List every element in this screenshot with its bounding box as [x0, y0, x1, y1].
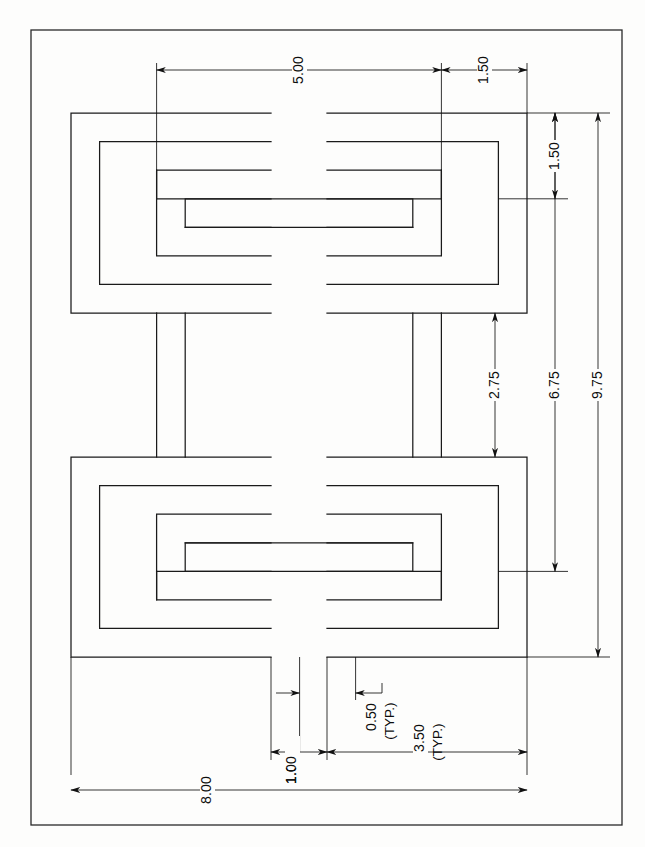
dim-label-8-00-fg: 8.00 — [198, 776, 214, 804]
motif-bottom-left-spiral-inner — [185, 543, 271, 572]
motif-top-right-spiral-inner — [327, 199, 413, 228]
motif-bottom-left-spiral — [157, 514, 271, 600]
dimension-lines-group — [71, 63, 610, 790]
motif-top-left-outer — [71, 113, 271, 313]
motif-top-left-spiral-inner — [185, 199, 271, 228]
dim-label-9-75-fg: 9.75 — [589, 371, 605, 399]
dim-label-2-75-fg: 2.75 — [486, 371, 502, 399]
motif-bottom-right-spiral — [327, 514, 441, 600]
dim-label-1-50-right-fg: 1.50 — [546, 142, 562, 170]
dim-label-0-50-typ: (TYP.) — [382, 702, 397, 739]
dim-label-1-00-fg: 1.00 — [283, 756, 299, 784]
greek-key-pattern — [71, 113, 527, 657]
dimension-text-group-top: 5.00 1.50 1.50 2.75 6.75 9.75 3.50 8.00 … — [198, 56, 605, 804]
dimension-text-group: 5.00 1.50 1.50 2.75 6.75 9.75 0.50 (TYP.… — [198, 56, 605, 804]
motif-top-left-spiral — [157, 170, 271, 256]
dim-label-6-75-fg: 6.75 — [546, 371, 562, 399]
sheet-border — [31, 30, 622, 825]
dim-label-0-50: 0.50 — [363, 703, 379, 731]
dim-label-3-50-typ: (TYP.) — [430, 723, 445, 760]
motif-top-right-spiral — [327, 170, 441, 256]
dim-label-3-50-fg: 3.50 — [411, 724, 427, 752]
technical-drawing-canvas: 5.00 1.50 1.50 2.75 6.75 9.75 0.50 (TYP.… — [0, 0, 645, 847]
motif-bottom-right-outer — [327, 457, 527, 657]
motif-top-right-outer — [327, 113, 527, 313]
motif-bottom-left-outer — [71, 457, 271, 657]
motif-bottom-right-spiral-inner — [327, 543, 413, 572]
dim-label-5-00-fg: 5.00 — [290, 56, 306, 84]
drawing-sheet: 5.00 1.50 1.50 2.75 6.75 9.75 0.50 (TYP.… — [0, 0, 645, 847]
dim-label-1-50-top-fg: 1.50 — [475, 56, 491, 84]
